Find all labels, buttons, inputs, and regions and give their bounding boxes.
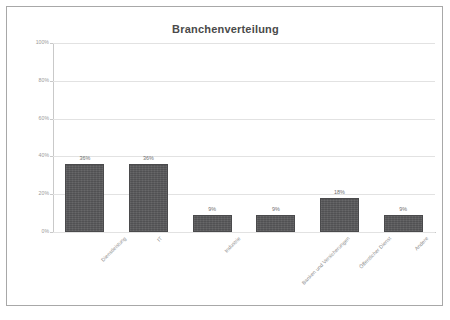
- bar[interactable]: [256, 215, 295, 232]
- bar[interactable]: [320, 198, 359, 232]
- bar[interactable]: [65, 164, 104, 232]
- y-tick-label: 40%: [39, 154, 49, 159]
- x-tick-label: Banken und Versicherungen: [301, 236, 351, 286]
- bar-slot: 18%: [320, 43, 359, 232]
- bar-value-label: 18%: [334, 190, 345, 195]
- y-tick-label: 80%: [39, 78, 49, 83]
- bar-slot: 9%: [384, 43, 423, 232]
- y-tick-mark: [50, 232, 53, 233]
- chart-frame: Branchenverteilung 0%20%40%60%80%100% 36…: [6, 6, 443, 306]
- bar-slot: 36%: [65, 43, 104, 232]
- y-tick-label: 60%: [39, 116, 49, 121]
- bar-slot: 9%: [193, 43, 232, 232]
- bar-slot: 9%: [256, 43, 295, 232]
- bar-value-label: 9%: [399, 207, 407, 212]
- chart-screenshot: Branchenverteilung 0%20%40%60%80%100% 36…: [0, 0, 450, 320]
- bar[interactable]: [384, 215, 423, 232]
- bar-value-label: 9%: [272, 207, 280, 212]
- y-tick-label: 100%: [36, 40, 49, 45]
- gridline: [53, 232, 435, 233]
- x-tick-label: Industrie: [224, 236, 242, 254]
- bar-series: 36%36%9%9%18%9%: [53, 43, 435, 232]
- bar-value-label: 36%: [79, 156, 90, 161]
- x-tick-label: Öffentlicher Dienst: [358, 236, 392, 270]
- y-tick-label: 0%: [42, 229, 50, 234]
- bar-slot: 36%: [129, 43, 168, 232]
- bar-value-label: 36%: [143, 156, 154, 161]
- plot-area: 0%20%40%60%80%100% 36%36%9%9%18%9%: [53, 43, 435, 232]
- bar-value-label: 9%: [208, 207, 216, 212]
- x-axis-labels: DienstleistungITIndustrieBanken und Vers…: [53, 234, 435, 306]
- x-tick-label: IT: [156, 236, 163, 243]
- x-tick-label: Andere: [414, 236, 430, 252]
- y-tick-label: 20%: [39, 192, 49, 197]
- page-title: Branchenverteilung: [7, 23, 444, 35]
- x-tick-label: Dienstleistung: [100, 236, 127, 263]
- bar[interactable]: [129, 164, 168, 232]
- bar[interactable]: [193, 215, 232, 232]
